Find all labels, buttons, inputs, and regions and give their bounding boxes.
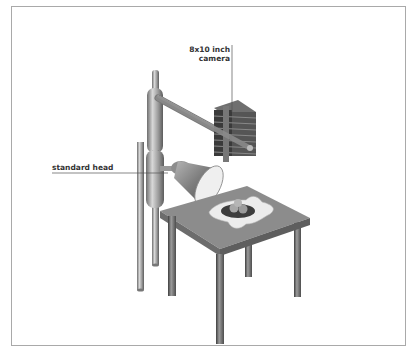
standard-head bbox=[146, 150, 176, 208]
standard-head-label: standard head bbox=[52, 163, 113, 172]
camera-label: 8x10 inch camera bbox=[189, 45, 230, 63]
view-camera bbox=[158, 98, 256, 162]
camera-label-line2: camera bbox=[189, 54, 230, 63]
camera-label-line1: 8x10 inch bbox=[189, 45, 230, 54]
rear-pole bbox=[137, 142, 144, 292]
